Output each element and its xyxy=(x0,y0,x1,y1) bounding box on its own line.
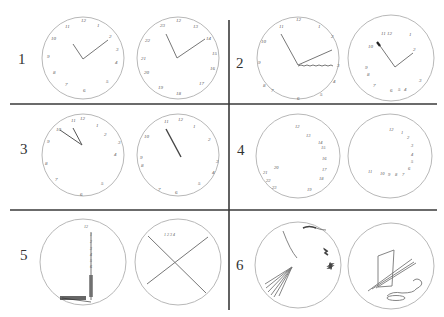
svg-text:12: 12 xyxy=(389,127,394,132)
svg-text:7: 7 xyxy=(373,83,376,88)
svg-text:4: 4 xyxy=(404,87,407,92)
svg-text:17: 17 xyxy=(322,167,327,172)
svg-text:15: 15 xyxy=(212,51,218,56)
svg-text:21: 21 xyxy=(263,170,268,175)
svg-text:12: 12 xyxy=(178,117,184,122)
svg-text:9: 9 xyxy=(258,60,261,65)
svg-text:10: 10 xyxy=(51,36,57,41)
svg-text:1: 1 xyxy=(96,123,99,128)
svg-text:4: 4 xyxy=(115,60,118,65)
svg-text:9: 9 xyxy=(365,65,368,70)
svg-text:18: 18 xyxy=(176,91,182,96)
svg-text:6: 6 xyxy=(90,264,92,269)
clock-drawing-figure: 1 2 3 4 5 6 1212 345 678 91011 121314 15… xyxy=(0,0,444,317)
svg-text:10: 10 xyxy=(144,134,150,139)
svg-text:8: 8 xyxy=(395,172,398,177)
svg-text:10: 10 xyxy=(380,171,385,176)
svg-text:23: 23 xyxy=(160,23,166,28)
svg-text:16: 16 xyxy=(322,156,327,161)
svg-text:12: 12 xyxy=(295,124,300,129)
svg-text:12: 12 xyxy=(176,18,182,23)
svg-text:1: 1 xyxy=(90,232,92,237)
svg-text:3: 3 xyxy=(116,47,119,52)
svg-text:3: 3 xyxy=(419,78,422,83)
svg-text:8: 8 xyxy=(45,161,48,166)
svg-text:6: 6 xyxy=(175,190,178,195)
figure-drawing: 1212 345 678 91011 121314 151617 181920 … xyxy=(0,0,444,317)
svg-text:10: 10 xyxy=(368,44,374,49)
svg-text:2: 2 xyxy=(407,135,410,140)
svg-text:22: 22 xyxy=(266,178,271,183)
svg-text:4: 4 xyxy=(333,79,336,84)
svg-text:3: 3 xyxy=(411,143,414,148)
svg-text:4: 4 xyxy=(114,152,117,157)
svg-text:16: 16 xyxy=(210,66,216,71)
svg-text:6: 6 xyxy=(390,88,393,93)
svg-text:13: 13 xyxy=(193,24,199,29)
svg-text:9: 9 xyxy=(140,155,143,160)
svg-text:10: 10 xyxy=(261,39,267,44)
svg-text:2: 2 xyxy=(413,47,416,52)
svg-text:3: 3 xyxy=(90,246,92,251)
svg-text:11 12: 11 12 xyxy=(381,31,392,36)
svg-text:6: 6 xyxy=(83,88,86,93)
svg-text:17: 17 xyxy=(199,81,205,86)
svg-text:12: 12 xyxy=(81,18,87,23)
svg-text:12: 12 xyxy=(80,116,86,121)
svg-text:2: 2 xyxy=(90,239,92,244)
svg-text:7: 7 xyxy=(158,187,161,192)
svg-text:19: 19 xyxy=(158,85,164,90)
svg-text:11: 11 xyxy=(164,119,169,124)
svg-text:12: 12 xyxy=(296,17,302,22)
svg-text:2: 2 xyxy=(104,132,107,137)
svg-text:1: 1 xyxy=(97,23,100,28)
svg-text:21: 21 xyxy=(141,56,146,61)
svg-text:20: 20 xyxy=(274,165,279,170)
svg-text:13: 13 xyxy=(306,133,311,138)
clock-face xyxy=(42,17,124,99)
svg-text:14: 14 xyxy=(206,36,212,41)
svg-text:9: 9 xyxy=(47,54,50,59)
svg-text:20: 20 xyxy=(144,70,150,75)
svg-text:9: 9 xyxy=(388,172,391,177)
svg-text:7: 7 xyxy=(402,172,405,177)
svg-text:7: 7 xyxy=(55,177,58,182)
svg-text:5: 5 xyxy=(106,79,109,84)
svg-text:23: 23 xyxy=(272,185,277,190)
svg-text:15: 15 xyxy=(321,145,326,150)
grid-dividers xyxy=(10,20,437,310)
svg-text:1: 1 xyxy=(193,124,196,129)
svg-text:18: 18 xyxy=(319,176,324,181)
svg-text:3: 3 xyxy=(118,140,121,145)
svg-text:19: 19 xyxy=(307,187,312,192)
svg-text:22: 22 xyxy=(145,38,151,43)
clock-face xyxy=(137,17,219,99)
svg-text:4: 4 xyxy=(411,152,414,157)
svg-text:10: 10 xyxy=(56,127,62,132)
svg-text:11: 11 xyxy=(279,24,284,29)
svg-text:5: 5 xyxy=(90,258,92,263)
svg-text:1: 1 xyxy=(409,32,412,37)
svg-text:5: 5 xyxy=(320,92,323,97)
svg-text:7: 7 xyxy=(65,82,68,87)
svg-text:1: 1 xyxy=(401,130,403,135)
svg-text:1 2 3 4: 1 2 3 4 xyxy=(164,232,175,237)
svg-text:8: 8 xyxy=(141,163,144,168)
svg-text:1: 1 xyxy=(318,24,321,29)
svg-text:8: 8 xyxy=(367,72,370,77)
svg-text:11: 11 xyxy=(71,118,76,123)
svg-text:11: 11 xyxy=(65,24,70,29)
svg-text:4: 4 xyxy=(90,252,92,257)
svg-text:5: 5 xyxy=(398,87,401,92)
svg-text:11: 11 xyxy=(368,169,372,174)
svg-text:2: 2 xyxy=(109,34,112,39)
panel-1 xyxy=(42,17,219,99)
svg-text:6: 6 xyxy=(408,166,411,171)
svg-text:5: 5 xyxy=(101,181,104,186)
svg-text:2: 2 xyxy=(208,137,211,142)
svg-text:3: 3 xyxy=(337,63,340,68)
svg-text:5: 5 xyxy=(198,181,201,186)
svg-text:9: 9 xyxy=(47,139,50,144)
svg-text:12: 12 xyxy=(84,224,88,229)
svg-text:5: 5 xyxy=(411,159,414,164)
